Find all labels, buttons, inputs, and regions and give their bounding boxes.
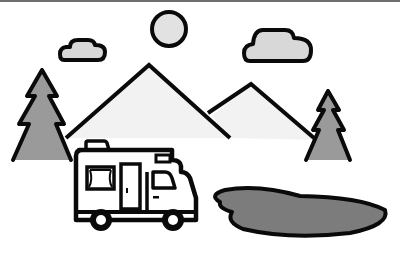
- tree-icon-right: [306, 91, 350, 160]
- camping-illustration: [0, 0, 400, 257]
- sun-icon: [152, 12, 186, 46]
- lake: [215, 188, 386, 236]
- cloud-icon-left: [60, 40, 105, 60]
- camper-van-icon: [76, 141, 196, 231]
- cloud-icon-right: [244, 30, 311, 61]
- mountain-large: [66, 65, 230, 138]
- tree-icon-left: [13, 70, 71, 160]
